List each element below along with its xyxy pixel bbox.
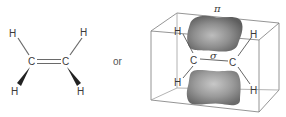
pi-orbital-upper-lobe [187, 16, 242, 52]
orbital-atom-h-top-left: H [174, 26, 181, 37]
orbital-atom-c-right: C [229, 57, 236, 68]
atom-h-bottom-left: H [11, 86, 18, 97]
atom-c-left: C [28, 56, 35, 67]
atom-c-right: C [62, 56, 69, 67]
orbital-atom-c-left: C [190, 55, 197, 66]
pi-bond-label: π [213, 3, 221, 14]
or-connector-label: or [113, 56, 123, 67]
bond-top-right [70, 38, 82, 55]
orbital-atom-h-bottom-right: H [250, 85, 257, 96]
ethylene-orbital-model: π σ C C H H H H [151, 3, 279, 112]
wedge-bond-bottom-left [17, 67, 30, 86]
orbital-atom-h-top-right: H [250, 29, 257, 40]
ethylene-figure: H H C C H H or [0, 0, 286, 117]
sigma-bond-label: σ [210, 50, 218, 61]
atom-h-bottom-right: H [77, 86, 84, 97]
pi-orbital-lower-lobe [187, 70, 241, 105]
bond-ch-top-right [238, 38, 251, 56]
atom-h-top-right: H [80, 27, 87, 38]
atom-h-top-left: H [9, 28, 16, 39]
bond-top-left [18, 38, 29, 55]
ethylene-structural-formula: H H C C H H [9, 27, 87, 97]
wedge-bond-bottom-right [67, 67, 81, 86]
orbital-atom-h-bottom-left: H [174, 77, 181, 88]
